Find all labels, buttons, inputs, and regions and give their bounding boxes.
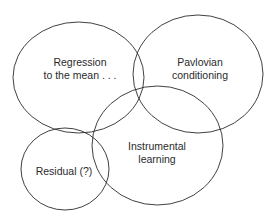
- pavlovian-label-line2: conditioning: [172, 69, 228, 81]
- regression-label-line1: Regression: [53, 56, 106, 68]
- instrumental-label-line2: learning: [138, 153, 176, 165]
- instrumental-label-line1: Instrumental: [128, 140, 186, 152]
- venn-diagram: Regression to the mean . . . Pavlovian c…: [0, 0, 276, 221]
- residual-label: Residual (?): [36, 165, 93, 177]
- pavlovian-label-line1: Pavlovian: [177, 56, 223, 68]
- regression-label-line2: to the mean . . .: [44, 69, 117, 81]
